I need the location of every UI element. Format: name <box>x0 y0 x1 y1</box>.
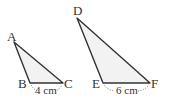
vertex-label-e: E <box>92 76 100 91</box>
vertex-label-d: D <box>73 3 82 18</box>
measure-ef: 6 cm <box>116 84 138 96</box>
vertex-label-f: F <box>151 76 158 91</box>
vertex-label-b: B <box>18 76 27 91</box>
vertex-label-a: A <box>7 29 17 44</box>
measure-bc: 4 cm <box>35 84 57 96</box>
similar-triangles-figure: A B C 4 cm D E F 6 cm <box>0 0 170 104</box>
triangle-def <box>77 18 150 83</box>
vertex-label-c: C <box>64 76 73 91</box>
